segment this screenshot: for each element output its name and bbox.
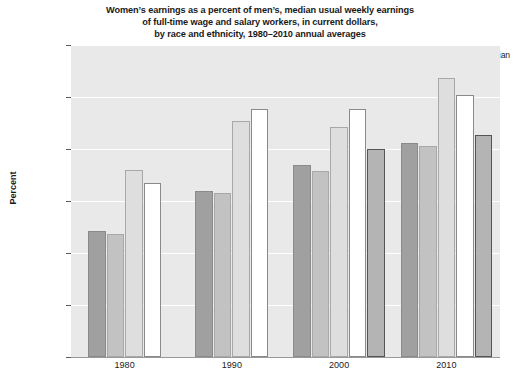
y-tick-mark-70 [66,201,71,202]
y-tick-mark-100 [66,45,71,46]
y-axis: 405060708090100 [0,0,520,379]
y-axis-label: Percent [8,171,18,204]
y-tick-mark-60 [66,253,71,254]
y-tick-mark-80 [66,149,71,150]
x-tick-label-1980: 1980 [80,360,170,370]
y-tick-mark-50 [66,305,71,306]
y-tick-mark-40 [66,357,71,358]
x-tick-label-1990: 1990 [187,360,277,370]
x-tick-label-2000: 2000 [294,360,384,370]
x-tick-label-2010: 2010 [401,360,491,370]
y-tick-mark-90 [66,97,71,98]
